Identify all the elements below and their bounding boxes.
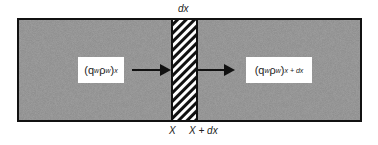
diagram-graphic [0, 0, 378, 145]
x-plus-dx-label: X + dx [189, 125, 218, 136]
flux-sub-x: x [114, 67, 118, 74]
flux-sub-x-dx: x + dx [284, 67, 303, 74]
flux-base: (q [255, 64, 265, 76]
flux-base: (q [84, 64, 94, 76]
hatched-element [172, 19, 197, 121]
control-volume-diagram: (qwρw)x (qwρw)x + dx dx X X + dx [0, 0, 378, 145]
inflow-label: (qwρw)x [78, 57, 124, 83]
outflow-label: (qwρw)x + dx [246, 57, 312, 83]
dx-label: dx [178, 3, 189, 14]
x-position-label: X [169, 125, 176, 136]
